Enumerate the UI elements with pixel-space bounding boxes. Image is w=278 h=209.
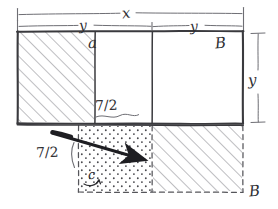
figure-canvas: x y y y a B B 7/2 7/2 c [0, 0, 278, 209]
brace-squiggle-upper [96, 114, 139, 117]
label-height-right: y [248, 73, 257, 88]
lower-band-top-edge [17, 125, 243, 126]
lower-right-hatched-region [153, 126, 242, 191]
label-shift-lower: 7/2 [36, 145, 59, 160]
split-width-dimension [18, 20, 244, 32]
label-total-width: x [121, 6, 131, 22]
label-corner-b-top: B [214, 35, 227, 51]
label-width-left: y [79, 18, 88, 33]
brace-bracket-lower [72, 143, 75, 168]
label-corner-a: a [87, 36, 97, 52]
label-shift-upper: 7/2 [95, 98, 118, 113]
upper-left-hatched-region [18, 32, 94, 122]
label-width-right: y [190, 19, 199, 34]
label-inner-c: c [88, 168, 96, 181]
label-corner-b-bottom: B [248, 183, 261, 199]
figure-drawing [0, 0, 278, 209]
